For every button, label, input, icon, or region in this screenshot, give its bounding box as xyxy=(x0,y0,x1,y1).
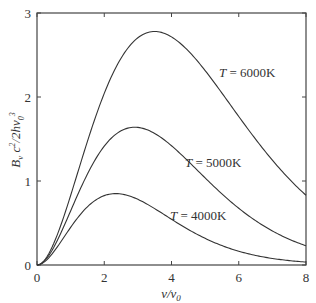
x-tick-label: 2 xyxy=(101,270,108,285)
x-tick-label: 6 xyxy=(236,270,243,285)
y-tick-label: 0 xyxy=(25,258,32,273)
y-axis-label: Bν c2/2hν03 xyxy=(8,112,26,167)
curve-4000k xyxy=(37,194,306,265)
blackbody-chart: 024680123T = 6000KT = 5000KT = 4000Kν/ν0… xyxy=(0,0,316,303)
curve-5000k xyxy=(37,127,306,265)
x-axis-label: ν/ν0 xyxy=(161,286,181,303)
x-tick-label: 8 xyxy=(303,270,310,285)
curve-label: T = 6000K xyxy=(219,65,276,80)
x-tick-label: 4 xyxy=(168,270,175,285)
y-tick-label: 2 xyxy=(25,90,32,105)
x-tick-label: 0 xyxy=(34,270,41,285)
curve-label: T = 5000K xyxy=(185,155,242,170)
y-tick-label: 1 xyxy=(25,174,32,189)
curve-label: T = 4000K xyxy=(170,208,227,223)
y-tick-label: 3 xyxy=(25,6,32,21)
plot-area: 024680123T = 6000KT = 5000KT = 4000Kν/ν0… xyxy=(8,6,309,303)
